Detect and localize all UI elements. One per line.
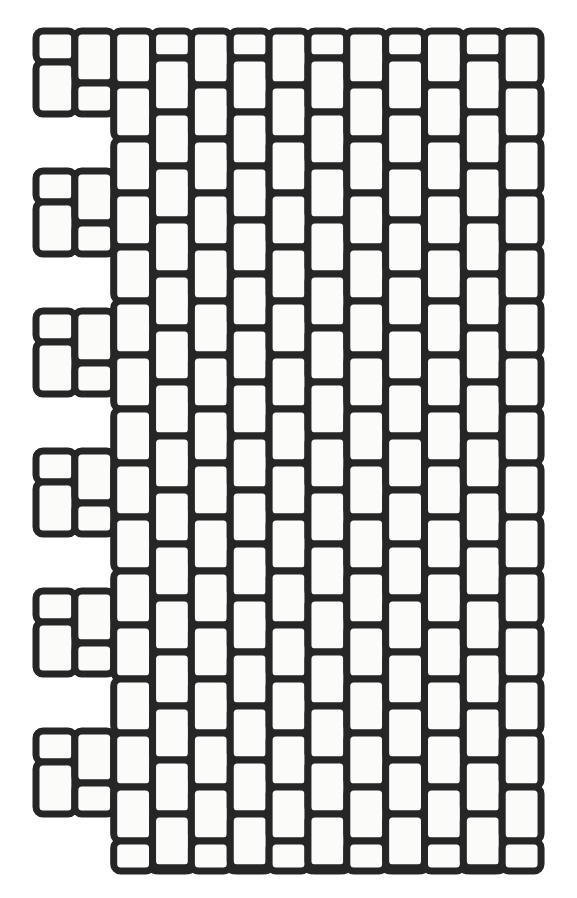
lattice-cell	[425, 841, 464, 871]
lattice-cell	[347, 733, 386, 787]
lattice-cell	[269, 139, 308, 193]
lattice-cell	[308, 31, 347, 58]
lattice-cell	[308, 436, 347, 490]
lattice-cell	[269, 301, 308, 355]
lattice-cell	[191, 85, 230, 139]
lattice-cell	[308, 328, 347, 382]
lattice-cell	[308, 274, 347, 328]
lattice-cell	[114, 463, 153, 517]
lattice-cell	[230, 652, 269, 706]
lattice-cell	[425, 625, 464, 679]
lattice-cell	[347, 409, 386, 463]
lattice-cell	[114, 733, 153, 787]
lattice-cell-motif-short	[75, 223, 114, 254]
lattice-cell	[269, 571, 308, 625]
lattice-cell	[425, 571, 464, 625]
lattice-cell	[463, 58, 502, 112]
lattice-cell-motif-tall	[36, 342, 75, 394]
lattice-cell	[114, 679, 153, 733]
lattice-cell	[269, 247, 308, 301]
lattice-cell	[425, 679, 464, 733]
lattice-cell	[308, 166, 347, 220]
lattice-cell	[153, 112, 192, 166]
lattice-cell	[463, 706, 502, 760]
lattice-cell	[114, 247, 153, 301]
lattice-cell	[308, 58, 347, 112]
lattice-cell	[269, 625, 308, 679]
lattice-cell	[463, 760, 502, 814]
lattice-cell	[425, 463, 464, 517]
lattice-cell	[230, 274, 269, 328]
lattice-cell	[386, 598, 425, 652]
lattice-cell	[230, 58, 269, 112]
lattice-cell	[114, 193, 153, 247]
lattice-cell	[347, 355, 386, 409]
lattice-cell	[269, 31, 308, 85]
lattice-cell	[502, 301, 541, 355]
lattice-cell	[269, 679, 308, 733]
lattice-cell	[502, 85, 541, 139]
lattice-cell	[386, 760, 425, 814]
lattice-cell	[502, 841, 541, 871]
lattice-cell	[230, 868, 269, 871]
lattice-cell	[347, 625, 386, 679]
lattice-cell	[386, 436, 425, 490]
lattice-cell	[153, 436, 192, 490]
lattice-cell	[269, 517, 308, 571]
lattice-cell	[463, 382, 502, 436]
lattice-cell	[347, 247, 386, 301]
lattice-cell	[502, 409, 541, 463]
lattice-cell	[463, 598, 502, 652]
lattice-cell	[153, 166, 192, 220]
lattice-cell	[425, 31, 464, 85]
lattice-cell	[425, 787, 464, 841]
lattice-cell	[386, 382, 425, 436]
lattice-cell	[269, 841, 308, 871]
lattice-cell	[153, 760, 192, 814]
lattice-cell	[502, 679, 541, 733]
lattice-cell	[347, 301, 386, 355]
lattice-cell	[114, 571, 153, 625]
lattice-cell	[153, 706, 192, 760]
lattice-cell	[502, 571, 541, 625]
lattice-cell	[114, 625, 153, 679]
lattice-cell	[425, 247, 464, 301]
lattice-cell	[463, 112, 502, 166]
lattice-cell	[269, 787, 308, 841]
lattice-cell-motif-tall	[36, 62, 75, 114]
lattice-cell	[191, 409, 230, 463]
lattice-cell	[114, 85, 153, 139]
lattice-cell	[502, 463, 541, 517]
lattice-cell	[230, 814, 269, 868]
lattice-cell	[114, 787, 153, 841]
lattice-cell	[463, 814, 502, 868]
lattice-cell	[230, 112, 269, 166]
lattice-cell	[230, 382, 269, 436]
lattice-cell-motif-short	[36, 171, 75, 202]
lattice-cell	[153, 328, 192, 382]
lattice-cell	[230, 544, 269, 598]
lattice-cell	[463, 166, 502, 220]
lattice-cell	[191, 463, 230, 517]
lattice-cell	[114, 139, 153, 193]
lattice-cell	[386, 274, 425, 328]
lattice-cell	[308, 112, 347, 166]
lattice-cell	[308, 544, 347, 598]
lattice-cell	[502, 355, 541, 409]
lattice-cell	[191, 247, 230, 301]
lattice-cell	[463, 490, 502, 544]
lattice-cell	[425, 517, 464, 571]
lattice-cell	[114, 409, 153, 463]
lattice-cell	[308, 652, 347, 706]
lattice-cell-motif-short	[36, 451, 75, 482]
lattice-cell-motif-tall	[36, 762, 75, 814]
lattice-cell-motif-short	[36, 731, 75, 762]
lattice-cell	[386, 31, 425, 58]
lattice-cell	[502, 787, 541, 841]
lattice-cell	[153, 490, 192, 544]
lattice-cell	[153, 868, 192, 871]
lattice-cell-motif-short	[75, 643, 114, 674]
lattice-cell	[308, 706, 347, 760]
lattice-cell	[308, 220, 347, 274]
lattice-cell	[308, 598, 347, 652]
